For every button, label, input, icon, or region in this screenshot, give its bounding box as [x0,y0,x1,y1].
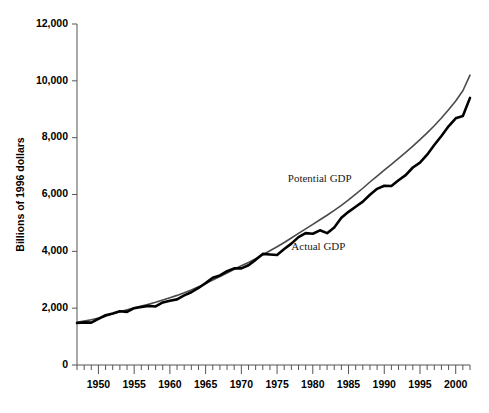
x-tick-label: 1950 [87,378,111,390]
series-lines [77,75,470,323]
y-tick-label: 6,000 [42,187,68,199]
x-tick-label: 1965 [194,378,218,390]
y-tick-label: 0 [62,358,68,370]
actual-gdp-line [77,98,470,323]
y-tick-label: 12,000 [36,17,68,29]
x-tick-label: 1995 [408,378,432,390]
x-axis: 1950195519601965197019751980198519901995… [77,365,470,390]
y-axis-title: Billions of 1996 dollars [14,137,26,252]
x-tick-label: 2000 [444,378,468,390]
x-tick-label: 1980 [301,378,325,390]
actual-gdp-label: Actual GDP [291,240,345,252]
gdp-chart-figure: 12,00010,0008,0006,0004,0002,0000 195019… [0,0,489,413]
x-tick-label: 1975 [265,378,289,390]
x-tick-label: 1990 [373,378,397,390]
x-tick-label: 1985 [337,378,361,390]
chart-canvas: 12,00010,0008,0006,0004,0002,0000 195019… [0,0,489,413]
y-axis: 12,00010,0008,0006,0004,0002,0000 [36,17,77,370]
x-tick-label: 1970 [230,378,254,390]
y-tick-label: 4,000 [42,244,68,256]
x-tick-label: 1955 [122,378,146,390]
potential-gdp-line [77,75,470,322]
x-tick-label: 1960 [158,378,182,390]
y-tick-label: 8,000 [42,130,68,142]
y-tick-label: 10,000 [36,74,68,86]
series-annotations: Potential GDPActual GDP [288,172,352,252]
axis-titles: Billions of 1996 dollars [14,137,26,252]
potential-gdp-label: Potential GDP [288,172,352,184]
y-tick-label: 2,000 [42,301,68,313]
